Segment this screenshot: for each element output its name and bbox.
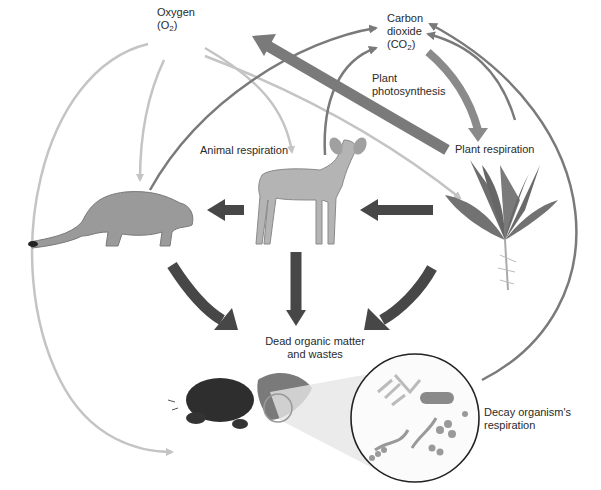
oxygen-label-line1: Oxygen	[157, 6, 195, 19]
oxygen-formula-post: )	[174, 19, 178, 31]
decay-arrows	[172, 252, 432, 320]
carbon-dioxide-label: Carbon dioxide (CO2)	[387, 12, 423, 54]
plant-respiration-label: Plant respiration	[455, 143, 535, 156]
carbon-oxygen-cycle-diagram: Oxygen (O2) Carbon dioxide (CO2) Plant p…	[0, 0, 601, 490]
oxygen-formula-pre: (O	[157, 19, 169, 31]
co2-formula-post: )	[412, 38, 416, 50]
dead-organic-matter-line2: and wastes	[250, 348, 380, 361]
decay-respiration-line2: respiration	[484, 419, 571, 432]
dead-organic-matter-label: Dead organic matter and wastes	[250, 335, 380, 361]
dead-organic-matter-line1: Dead organic matter	[250, 335, 380, 348]
oxygen-formula: (O2)	[157, 19, 195, 35]
plant-photosynthesis-line1: Plant	[372, 72, 445, 85]
decay-respiration-label: Decay organism's respiration	[484, 406, 571, 432]
cougar-illustration	[28, 192, 193, 248]
plant-photosynthesis-line2: photosynthesis	[372, 85, 445, 98]
decay-respiration-line1: Decay organism's	[484, 406, 571, 419]
co2-label-line2: dioxide	[387, 25, 423, 38]
co2-formula-pre: (CO	[387, 38, 407, 50]
plant-illustration	[445, 160, 558, 290]
co2-formula: (CO2)	[387, 38, 423, 54]
animal-respiration-label: Animal respiration	[200, 144, 288, 157]
plant-photosynthesis-label: Plant photosynthesis	[372, 72, 445, 98]
decomposer-magnifier	[264, 354, 479, 482]
oxygen-label: Oxygen (O2)	[157, 6, 195, 35]
co2-label-line1: Carbon	[387, 12, 423, 25]
